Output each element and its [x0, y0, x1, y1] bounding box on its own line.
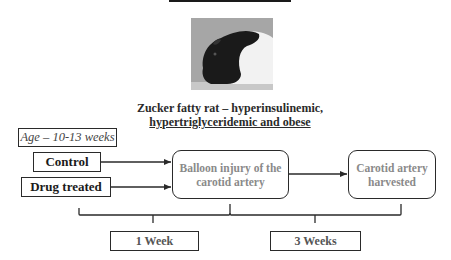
bracket-3-weeks	[230, 204, 401, 223]
connector-lines	[0, 0, 451, 260]
duration-1-week-box: 1 Week	[110, 231, 199, 251]
bracket-1-week	[79, 204, 230, 223]
duration-3-weeks-box: 3 Weeks	[270, 231, 361, 251]
